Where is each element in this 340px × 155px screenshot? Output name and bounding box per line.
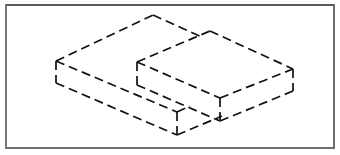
small-box bbox=[137, 31, 293, 121]
large-box-top-back-left-edge bbox=[56, 15, 153, 61]
small-box-bottom-front-left-edge bbox=[137, 85, 220, 121]
large-box-top-back-right-edge bbox=[153, 15, 204, 38]
large-box bbox=[56, 15, 222, 135]
isometric-boxes-drawing bbox=[0, 0, 340, 155]
small-box-top-back-right-edge bbox=[210, 31, 293, 69]
small-box-top-front-right-edge bbox=[220, 69, 293, 98]
large-box-top-front-left-edge bbox=[56, 61, 177, 112]
small-box-bottom-front-right-edge bbox=[220, 91, 293, 121]
large-box-bottom-front-left-edge bbox=[56, 83, 177, 135]
small-box-top-front-left-edge bbox=[137, 62, 220, 98]
large-box-top-front-right-edge bbox=[177, 106, 190, 112]
